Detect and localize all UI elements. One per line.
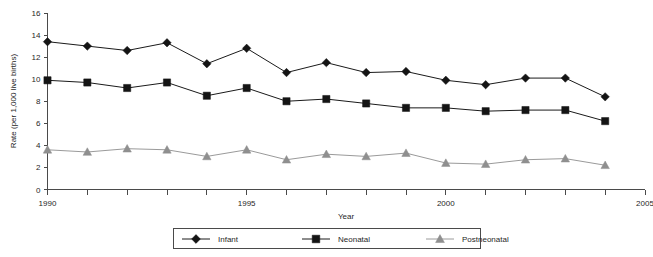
data-point-infant-1991	[83, 42, 91, 50]
data-point-neonatal-1996	[283, 98, 290, 105]
y-tick-label: 8	[36, 97, 41, 106]
data-point-postneonatal-1995	[242, 146, 250, 154]
square-icon	[312, 235, 320, 243]
data-point-neonatal-1998	[363, 100, 370, 107]
data-point-neonatal-1993	[163, 79, 170, 86]
y-tick-label: 14	[32, 31, 41, 40]
data-point-infant-1999	[402, 67, 410, 75]
legend-label-0: Infant	[218, 235, 239, 244]
y-tick-label: 16	[32, 9, 41, 18]
data-point-infant-1990	[43, 37, 51, 45]
data-point-infant-2002	[521, 74, 529, 82]
data-point-postneonatal-1997	[322, 150, 330, 158]
legend-entries: InfantNeonatalPostneonatal	[182, 235, 509, 244]
y-tick-label: 6	[36, 119, 41, 128]
data-point-neonatal-1994	[203, 92, 210, 99]
data-point-postneonatal-1990	[43, 146, 51, 154]
legend-label-1: Neonatal	[338, 235, 370, 244]
x-axis-title: Year	[338, 212, 355, 221]
infant-mortality-line-chart: 0246810121416 1990199520002005 Rate (per…	[0, 0, 653, 257]
diamond-icon	[192, 235, 201, 244]
data-point-infant-2003	[561, 74, 569, 82]
data-point-infant-1994	[203, 60, 211, 68]
x-axis-ticks: 1990199520002005	[39, 190, 653, 208]
y-tick-label: 4	[36, 141, 41, 150]
data-series-group	[43, 37, 609, 168]
y-tick-label: 12	[32, 53, 41, 62]
data-point-infant-2001	[481, 81, 489, 89]
y-axis-ticks: 0246810121416	[32, 9, 48, 195]
data-point-infant-2000	[442, 76, 450, 84]
x-tick-label: 1995	[238, 199, 256, 208]
y-axis-title: Rate (per 1,000 live births)	[9, 54, 18, 149]
y-tick-label: 10	[32, 75, 41, 84]
x-tick-label: 1990	[39, 199, 57, 208]
data-point-neonatal-1997	[323, 95, 330, 102]
chart-canvas: 0246810121416 1990199520002005 Rate (per…	[0, 0, 653, 257]
data-point-neonatal-2001	[482, 108, 489, 115]
data-point-neonatal-1991	[84, 79, 91, 86]
data-point-neonatal-1995	[243, 84, 250, 91]
data-point-infant-2004	[601, 93, 609, 101]
data-point-postneonatal-1999	[402, 149, 410, 157]
data-point-neonatal-1990	[44, 77, 51, 84]
y-tick-label: 0	[36, 186, 41, 195]
data-point-neonatal-2004	[602, 118, 609, 125]
data-point-neonatal-1992	[124, 84, 131, 91]
legend-label-2: Postneonatal	[462, 235, 509, 244]
x-tick-label: 2005	[636, 199, 653, 208]
data-point-neonatal-2003	[562, 106, 569, 113]
data-point-infant-1995	[242, 44, 250, 52]
x-tick-label: 2000	[437, 199, 455, 208]
data-point-infant-1997	[322, 58, 330, 66]
data-point-neonatal-2002	[522, 106, 529, 113]
data-point-infant-1992	[123, 46, 131, 54]
data-point-neonatal-2000	[442, 104, 449, 111]
y-tick-label: 2	[36, 163, 41, 172]
data-point-neonatal-1999	[402, 104, 409, 111]
data-point-infant-1996	[282, 68, 290, 76]
data-point-infant-1993	[163, 39, 171, 47]
data-point-infant-1998	[362, 68, 370, 76]
